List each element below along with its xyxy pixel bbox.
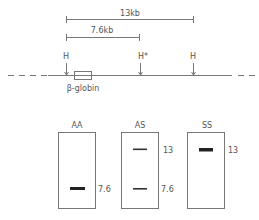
site-h-3-label: H xyxy=(190,52,196,61)
site-h-1-label: H xyxy=(63,52,69,61)
gel-as-genotype: AS xyxy=(135,121,146,130)
site-h-1: H xyxy=(63,52,69,75)
span-13kb: 13kb xyxy=(66,9,194,23)
site-h-star-label: H* xyxy=(138,52,148,61)
beta-globin-label: β-globin xyxy=(67,84,100,93)
restriction-map-diagram: 13kb 7.6kb H H* H β-globin AA 7.6 AS xyxy=(0,0,259,220)
gel-as-frame xyxy=(122,133,159,209)
gel-aa-genotype: AA xyxy=(71,121,83,130)
gel-ss-frame xyxy=(188,133,225,209)
span-7-6kb: 7.6kb xyxy=(66,26,140,41)
span-7-6kb-label: 7.6kb xyxy=(91,26,113,35)
gel-aa-band-7-6-label: 7.6 xyxy=(98,185,111,194)
gel-as-band-7-6 xyxy=(133,188,147,190)
gel-ss-band-13-label: 13 xyxy=(228,146,238,155)
gel-as-band-13-label: 13 xyxy=(163,146,173,155)
site-h-3: H xyxy=(190,52,196,75)
gel-aa-band-7-6 xyxy=(70,187,85,190)
gel-lane-as: AS 13 7.6 xyxy=(122,121,174,209)
gel-ss-genotype: SS xyxy=(202,121,212,130)
gel-as-band-13 xyxy=(133,149,147,151)
gel-ss-band-13 xyxy=(199,148,213,152)
gel-lane-aa: AA 7.6 xyxy=(59,121,111,209)
gel-aa-frame xyxy=(59,133,96,209)
gel-as-band-7-6-label: 7.6 xyxy=(161,185,174,194)
gel-lane-ss: SS 13 xyxy=(188,121,239,209)
site-h-star: H* xyxy=(138,52,148,75)
span-13kb-label: 13kb xyxy=(120,9,140,18)
